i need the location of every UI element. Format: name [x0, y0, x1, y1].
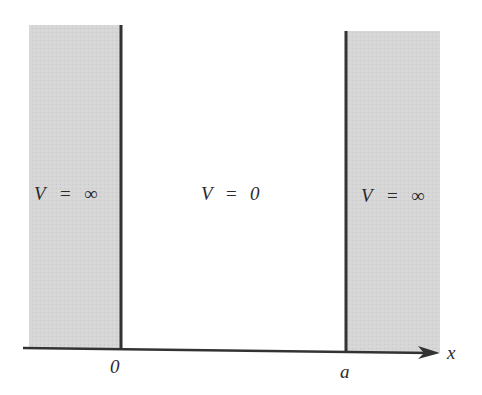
- middle-region-label: V = 0: [201, 183, 260, 204]
- left-region-label: V = ∞: [34, 183, 98, 204]
- right-region-label: V = ∞: [361, 185, 425, 206]
- svg-text:=: =: [387, 185, 398, 206]
- tick-label-a: a: [340, 361, 350, 382]
- tick-label-zero: 0: [110, 356, 120, 377]
- svg-text:∞: ∞: [411, 185, 425, 206]
- svg-text:V: V: [201, 183, 215, 204]
- infinite-square-well-diagram: x 0 a V = ∞ V = 0 V = ∞: [0, 0, 482, 395]
- svg-text:=: =: [226, 183, 237, 204]
- svg-text:∞: ∞: [84, 183, 98, 204]
- svg-text:0: 0: [250, 183, 260, 204]
- x-axis-label: x: [446, 342, 456, 363]
- svg-text:=: =: [60, 183, 71, 204]
